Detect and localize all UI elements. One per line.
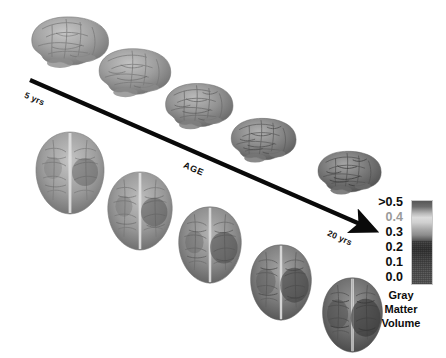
brain-lateral-age-17 <box>223 115 299 165</box>
colorbar-tick-4: 0.1 <box>386 256 406 269</box>
colorbar-tick-1: 0.4 <box>386 211 406 224</box>
legend-caption-line-2: Matter <box>362 302 440 316</box>
legend-caption-line-1: Gray <box>362 288 440 302</box>
age-end-label: 20 yrs <box>326 228 354 247</box>
legend-caption-line-3: Volume <box>362 316 440 330</box>
colorbar-tick-3: 0.2 <box>386 241 406 254</box>
brain-axial-age-9 <box>105 170 175 252</box>
age-axis-label: AGE <box>182 160 206 178</box>
colorbar <box>411 200 433 285</box>
colorbar-tick-2: 0.3 <box>386 226 406 239</box>
brain-axial-age-5 <box>33 130 107 216</box>
colorbar-tick-labels: >0.5 0.4 0.3 0.2 0.1 0.0 <box>362 196 406 284</box>
legend-caption: Gray Matter Volume <box>362 288 440 330</box>
colorbar-tick-0: >0.5 <box>378 196 406 209</box>
gray-matter-volume-legend: >0.5 0.4 0.3 0.2 0.1 0.0 Gray Matter Vol… <box>362 196 444 292</box>
brain-lateral-age-20 <box>310 148 384 197</box>
brain-axial-age-13 <box>176 205 244 285</box>
brain-development-figure: 5 yrs AGE 20 yrs >0.5 0.4 0.3 0.2 0.1 0.… <box>0 0 446 358</box>
age-start-label: 5 yrs <box>23 90 46 108</box>
brain-axial-age-17 <box>248 243 314 322</box>
colorbar-dither-overlay <box>412 241 432 284</box>
colorbar-tick-5: 0.0 <box>386 271 406 284</box>
